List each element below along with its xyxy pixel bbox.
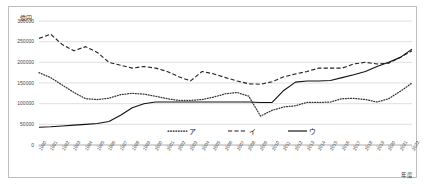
legend-label-3: ウ [309,126,316,136]
series-lines [39,34,412,127]
x-axis-title: 年度 [401,171,413,179]
line-chart: 億円 年度 0500001000001500002000002500003000… [0,0,427,187]
legend-label-1: ア [189,126,196,136]
y-tick-label: 200000 [8,60,34,65]
gridlines [39,21,412,145]
y-tick-label: 150000 [8,81,34,86]
chart-screenshot: 億円 年度 0500001000001500002000002500003000… [0,0,427,187]
y-tick-label: 100000 [8,101,34,106]
series-line-1 [39,73,412,116]
y-tick-label: 0 [8,143,34,148]
plot-area [0,0,427,187]
y-tick-label: 250000 [8,39,34,44]
legend-label-2: イ [249,126,256,136]
series-line-3 [39,49,412,127]
y-tick-label: 300000 [8,19,34,24]
y-tick-label: 50000 [8,122,34,127]
